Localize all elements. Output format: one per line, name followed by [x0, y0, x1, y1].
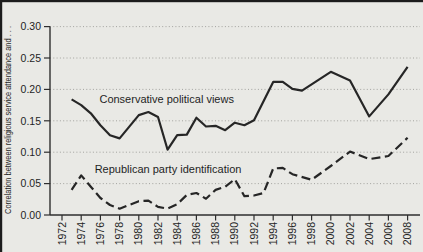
- x-tick-label: 1980: [132, 222, 144, 246]
- x-tick-label: 1974: [75, 222, 87, 246]
- x-tick-label: 1994: [267, 222, 279, 246]
- x-tick-label: 1984: [171, 222, 183, 246]
- x-tick-label: 1992: [248, 222, 260, 246]
- x-tick-label: 1972: [56, 222, 68, 246]
- x-tick-label: 1996: [286, 222, 298, 246]
- y-axis-title: Correlation between religious service at…: [3, 26, 13, 214]
- y-tick-label: 0.25: [21, 52, 42, 64]
- x-tick-label: 1986: [190, 222, 202, 246]
- x-tick-label: 2008: [401, 222, 413, 246]
- series-label: Republican party identification: [95, 163, 242, 175]
- x-tick-label: 2002: [344, 222, 356, 246]
- line-chart-svg: 0.000.050.100.150.200.250.30197219741976…: [0, 0, 423, 252]
- x-tick-label: 1988: [209, 222, 221, 246]
- x-tick-label: 1978: [113, 222, 125, 246]
- x-tick-label: 2004: [363, 222, 375, 246]
- x-tick-label: 1976: [94, 222, 106, 246]
- y-tick-label: 0.05: [21, 177, 42, 189]
- y-tick-label: 0.20: [21, 83, 42, 95]
- y-tick-label: 0.15: [21, 115, 42, 127]
- scan-border-top: [0, 0, 423, 2]
- x-tick-label: 2006: [382, 222, 394, 246]
- x-tick-label: 1998: [305, 222, 317, 246]
- scan-border-left: [0, 0, 2, 252]
- x-tick-label: 2000: [324, 222, 336, 246]
- x-tick-label: 1990: [228, 222, 240, 246]
- correlation-line-chart-figure: 0.000.050.100.150.200.250.30197219741976…: [0, 0, 423, 252]
- y-tick-label: 0.00: [21, 209, 42, 221]
- y-tick-label: 0.10: [21, 146, 42, 158]
- x-tick-label: 1982: [152, 222, 164, 246]
- y-tick-label: 0.30: [21, 20, 42, 32]
- series-label: Conservative political views: [99, 93, 234, 105]
